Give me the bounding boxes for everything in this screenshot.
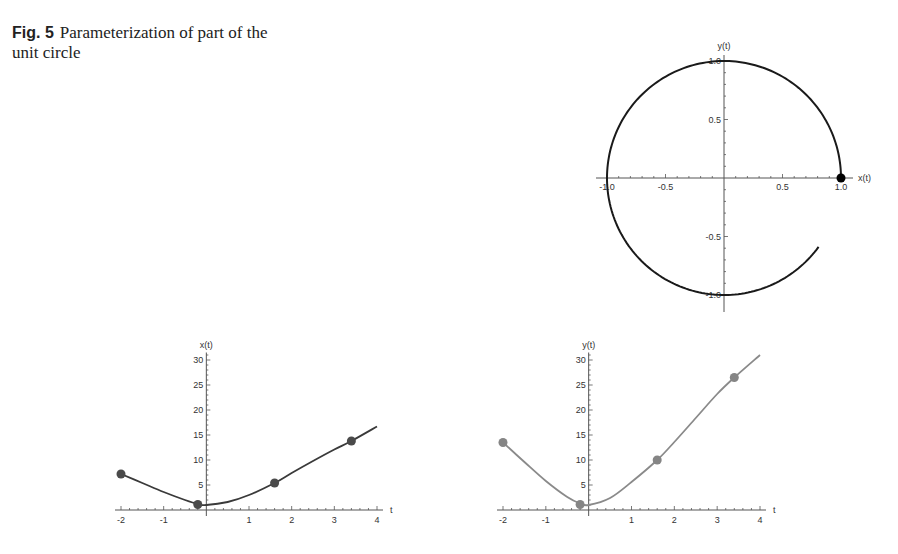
y-tick-label: 25 [193, 380, 203, 390]
x-tick-label: -1 [542, 515, 550, 525]
y-tick-label: 5 [198, 480, 203, 490]
x-tick-label: 2 [289, 515, 294, 525]
y-tick-label: 20 [576, 405, 586, 415]
y-tick-label: 15 [576, 430, 586, 440]
y-axis-label: y(t) [718, 41, 731, 51]
x-tick-label: 4 [374, 515, 379, 525]
y-tick-label: 20 [193, 405, 203, 415]
circle-plot: -1.0-0.50.51.01.00.5-0.5-1.0x(t)y(t) [596, 41, 871, 312]
data-point-marker [270, 479, 279, 488]
data-point-marker [117, 470, 126, 479]
x-tick-label: 3 [715, 515, 720, 525]
y-tick-label: 30 [576, 355, 586, 365]
data-point-marker [193, 500, 202, 509]
y-axis-label: x(t) [200, 340, 213, 350]
x-tick-label: 1.0 [835, 182, 848, 192]
x-tick-label: 0.5 [776, 182, 789, 192]
x-tick-label: 4 [757, 515, 762, 525]
figure-plots: -1.0-0.50.51.01.00.5-0.5-1.0x(t)y(t) -2-… [0, 0, 898, 554]
x-tick-label: -2 [117, 515, 125, 525]
data-point-marker [576, 500, 585, 509]
curve [503, 355, 760, 505]
x-tick-label: 1 [246, 515, 251, 525]
x-tick-label: -0.5 [658, 182, 674, 192]
x-tick-label: 3 [332, 515, 337, 525]
curve [121, 427, 377, 506]
x-axis-label: t [773, 505, 776, 515]
x-tick-label: -2 [499, 515, 507, 525]
data-point-marker [730, 373, 739, 382]
y-tick-label: 15 [193, 430, 203, 440]
data-point-marker [499, 438, 508, 447]
y-tick-label: -0.5 [705, 232, 721, 242]
y-tick-label: 10 [193, 455, 203, 465]
data-point-marker [653, 456, 662, 465]
x-tick-label: 1 [629, 515, 634, 525]
y-of-t-plot: -2-1123451015202530ty(t) [497, 340, 776, 526]
x-axis-label: x(t) [858, 173, 871, 183]
x-tick-label: -1 [160, 515, 168, 525]
y-tick-label: 0.5 [708, 115, 721, 125]
y-axis-label: y(t) [582, 340, 595, 350]
x-of-t-plot: -2-1123451015202530tx(t) [115, 340, 393, 526]
start-point-marker [837, 174, 846, 183]
y-tick-label: 5 [581, 480, 586, 490]
y-tick-label: 30 [193, 355, 203, 365]
y-tick-label: 25 [576, 380, 586, 390]
x-tick-label: 2 [672, 515, 677, 525]
y-tick-label: 10 [576, 455, 586, 465]
data-point-marker [347, 437, 356, 446]
x-axis-label: t [390, 505, 393, 515]
